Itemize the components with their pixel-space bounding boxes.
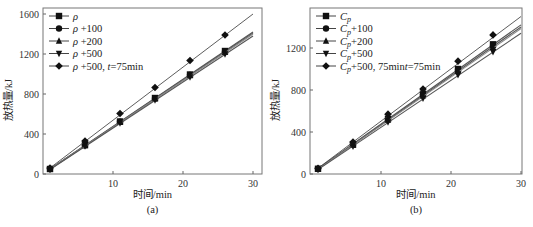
legend-item: ρ bbox=[49, 11, 78, 22]
data-point bbox=[116, 110, 124, 118]
legend-label: ρ +200 bbox=[72, 36, 102, 47]
legend-label: Cp+500, 75mint=75min bbox=[340, 61, 441, 75]
legend-marker bbox=[56, 13, 62, 19]
legend-label: Cp bbox=[340, 11, 351, 25]
legend-label: ρ +500 bbox=[72, 48, 102, 59]
legend-marker bbox=[56, 25, 62, 31]
x-tick-label: 20 bbox=[178, 178, 188, 189]
y-tick-label: 1200 bbox=[286, 43, 306, 54]
panel-label: (a) bbox=[147, 204, 159, 216]
legend-item: Cp+200 bbox=[316, 36, 373, 50]
legend-item: Cp+500 bbox=[316, 48, 373, 62]
legend-item: ρ +100 bbox=[49, 23, 102, 34]
legend-item: Cp+100 bbox=[316, 23, 373, 37]
legend-item: Cp+500, 75mint=75min bbox=[316, 61, 441, 75]
legend-label: ρ +100 bbox=[72, 23, 102, 34]
y-tick-label: 1200 bbox=[19, 49, 39, 60]
x-tick-label: 30 bbox=[248, 178, 258, 189]
data-point bbox=[186, 57, 194, 65]
chart-panel-b: 04008001200102030时间/min放热量/kJ(b)CpCp+100… bbox=[269, 8, 526, 216]
x-tick-label: 10 bbox=[108, 178, 118, 189]
legend-label: ρ +500, t=75min bbox=[72, 61, 144, 72]
legend-item: ρ +500 bbox=[49, 48, 102, 59]
y-tick-label: 1600 bbox=[19, 9, 39, 20]
legend-marker bbox=[323, 13, 329, 19]
y-axis-title: 放热量/kJ bbox=[2, 79, 14, 121]
x-tick-label: 20 bbox=[446, 178, 456, 189]
y-tick-label: 400 bbox=[24, 129, 39, 140]
y-tick-label: 0 bbox=[34, 169, 39, 180]
legend-marker bbox=[322, 62, 330, 70]
data-point bbox=[454, 57, 462, 65]
x-axis-title: 时间/min bbox=[396, 188, 436, 200]
x-tick-label: 30 bbox=[516, 178, 526, 189]
y-tick-label: 800 bbox=[24, 89, 39, 100]
legend-label: ρ bbox=[72, 11, 78, 22]
chart-figure: 040080012001600102030时间/min放热量/kJ(a)ρρ +… bbox=[0, 0, 533, 227]
y-axis-title: 放热量/kJ bbox=[269, 79, 281, 121]
y-tick-label: 400 bbox=[291, 127, 306, 138]
legend-item: Cp bbox=[316, 11, 351, 25]
series-fit-line bbox=[318, 17, 521, 169]
x-tick-label: 10 bbox=[376, 178, 386, 189]
data-point bbox=[489, 31, 497, 39]
y-tick-label: 0 bbox=[301, 169, 306, 180]
legend-marker bbox=[323, 25, 329, 31]
panel-label: (b) bbox=[410, 204, 423, 216]
chart-panel-a: 040080012001600102030时间/min放热量/kJ(a)ρρ +… bbox=[2, 8, 262, 216]
legend-label: Cp+100 bbox=[340, 23, 373, 37]
legend-item: ρ +500, t=75min bbox=[49, 61, 144, 72]
legend-label: Cp+500 bbox=[340, 48, 373, 62]
legend-label: Cp+200 bbox=[340, 36, 373, 50]
legend-item: ρ +200 bbox=[49, 36, 102, 47]
legend: CpCp+100Cp+200Cp+500Cp+500, 75mint=75min bbox=[316, 11, 441, 75]
legend: ρρ +100ρ +200ρ +500ρ +500, t=75min bbox=[49, 11, 144, 72]
data-point bbox=[490, 49, 496, 55]
y-tick-label: 800 bbox=[291, 85, 306, 96]
legend-marker bbox=[55, 62, 63, 70]
x-axis-title: 时间/min bbox=[133, 188, 173, 200]
